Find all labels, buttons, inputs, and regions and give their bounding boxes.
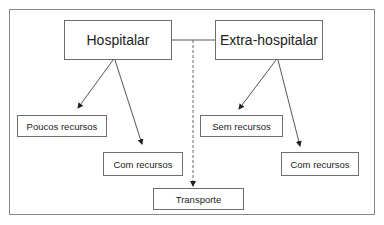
- node-hospitalar-label: Hospitalar: [86, 32, 149, 48]
- node-com-recursos-left: Com recursos: [103, 152, 183, 176]
- node-com-recursos-right-label: Com recursos: [290, 159, 349, 170]
- node-com-recursos-right: Com recursos: [281, 152, 359, 176]
- node-transporte: Transporte: [153, 188, 244, 210]
- node-extra-hospitalar: Extra-hospitalar: [215, 20, 323, 60]
- node-extra-hospitalar-label: Extra-hospitalar: [220, 32, 318, 48]
- node-com-recursos-left-label: Com recursos: [113, 159, 172, 170]
- node-poucos-recursos-label: Poucos recursos: [27, 121, 98, 132]
- arrow-poucos: [78, 60, 113, 108]
- node-hospitalar: Hospitalar: [64, 20, 172, 60]
- arrow-sem: [239, 60, 276, 109]
- node-sem-recursos-label: Sem recursos: [212, 121, 271, 132]
- node-transporte-label: Transporte: [176, 194, 222, 205]
- diagram-canvas: Hospitalar Extra-hospitalar Poucos recur…: [0, 0, 384, 225]
- node-poucos-recursos: Poucos recursos: [17, 115, 107, 137]
- arrow-com-left: [115, 60, 142, 144]
- node-sem-recursos: Sem recursos: [200, 115, 283, 137]
